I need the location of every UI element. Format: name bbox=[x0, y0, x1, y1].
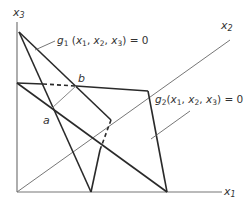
intersection-line-ab bbox=[52, 86, 76, 108]
g2-top-edge-left bbox=[17, 83, 43, 84]
g2-top-edge-dashed bbox=[43, 84, 76, 86]
g1-edge-to-x1 bbox=[19, 32, 91, 192]
g2-leader-line bbox=[151, 111, 190, 139]
point-a-label: a bbox=[43, 114, 50, 127]
x1-axis-label: x1 bbox=[223, 185, 236, 199]
g1-edge-base-solid bbox=[91, 150, 100, 192]
x2-axis-label: x2 bbox=[220, 19, 233, 33]
g1-surface bbox=[19, 32, 111, 192]
point-b-label: b bbox=[78, 72, 85, 85]
x3-axis-label: x3 bbox=[12, 6, 25, 20]
g2-surface-label: g2(x1, x2, x3) = 0 bbox=[155, 93, 243, 107]
g2-top-edge-right bbox=[76, 86, 148, 91]
g1-surface-label: g1 (x1, x2, x3) = 0 bbox=[57, 34, 149, 48]
constraint-diagram: x3 x2 x1 a b g1 (x1, x2, x3) = 0 g2(x1, … bbox=[0, 0, 245, 208]
g1-leader-line bbox=[35, 41, 55, 50]
